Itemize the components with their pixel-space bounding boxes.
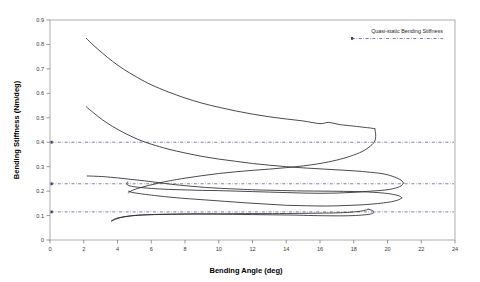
x-tick-label: 2 (82, 246, 85, 252)
reference-line-marker (51, 141, 53, 144)
plot-frame (50, 20, 455, 240)
y-tick-label: 0 (41, 237, 44, 243)
data-curve-0 (86, 38, 375, 128)
x-tick-label: 24 (452, 246, 458, 252)
x-tick-label: 0 (48, 246, 51, 252)
data-curves (86, 38, 403, 221)
legend-swatch-marker (351, 37, 353, 40)
y-tick-label: 0.1 (36, 213, 44, 219)
chart-canvas: 024681012141618202224 00.10.20.30.40.50.… (0, 0, 480, 282)
legend-entry-label: Quasi-static Bending Stiffness (371, 28, 443, 34)
x-tick-label: 14 (283, 246, 289, 252)
y-tick-label: 0.3 (36, 164, 44, 170)
chart-figure: 024681012141618202224 00.10.20.30.40.50.… (0, 0, 480, 282)
x-tick-label: 22 (418, 246, 424, 252)
y-tick-label: 0.9 (36, 17, 44, 23)
x-tick-label: 12 (249, 246, 255, 252)
y-tick-label: 0.8 (36, 41, 44, 47)
data-curve-6 (112, 209, 374, 221)
data-curve-2 (86, 107, 403, 183)
x-tick-label: 10 (216, 246, 222, 252)
x-tick-labels: 024681012141618202224 (48, 246, 458, 252)
y-tick-label: 0.4 (36, 139, 44, 145)
data-curve-5 (128, 191, 401, 206)
y-axis-label: Bending Stiffness (Nm/deg) (12, 80, 21, 179)
y-tick-label: 0.2 (36, 188, 44, 194)
x-tick-label: 4 (116, 246, 119, 252)
reference-line-marker (51, 210, 53, 213)
x-tick-label: 16 (317, 246, 323, 252)
y-tick-label: 0.5 (36, 115, 44, 121)
y-tick-labels: 00.10.20.30.40.50.60.70.80.9 (36, 17, 44, 243)
y-tick-label: 0.6 (36, 90, 44, 96)
chart-legend: Quasi-static Bending Stiffness (351, 28, 443, 40)
reference-line-marker (51, 182, 53, 185)
axis-ticks (47, 20, 456, 244)
x-tick-label: 6 (150, 246, 153, 252)
x-tick-label: 20 (384, 246, 390, 252)
x-axis-label: Bending Angle (deg) (209, 266, 283, 275)
x-tick-label: 8 (183, 246, 186, 252)
x-tick-label: 18 (351, 246, 357, 252)
y-tick-label: 0.7 (36, 66, 44, 72)
